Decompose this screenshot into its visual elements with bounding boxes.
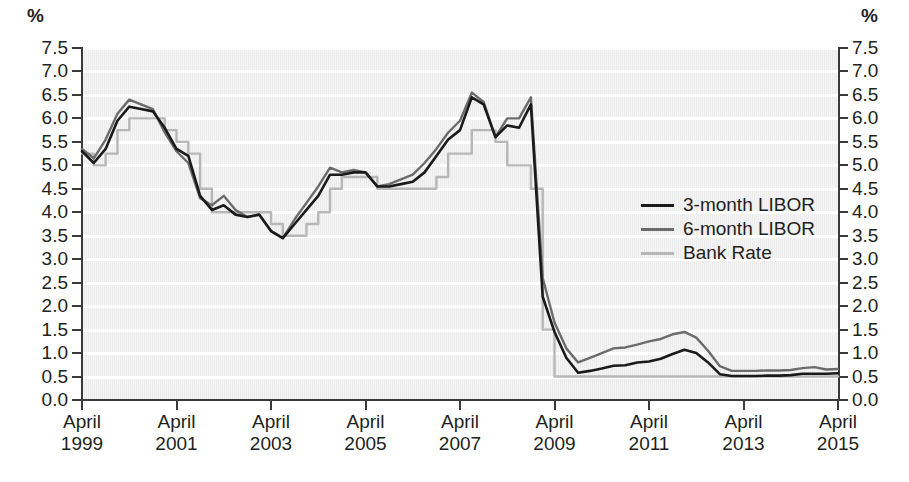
- y-tick-label-left: 6.0: [20, 108, 68, 127]
- x-tick-mark: [81, 400, 83, 410]
- x-tick-year: 2005: [321, 433, 411, 455]
- x-tick-month: April: [415, 411, 505, 433]
- x-tick-mark: [743, 400, 745, 410]
- x-tick-label: April2015: [793, 411, 883, 455]
- y-tick-label-right: 0.5: [852, 367, 900, 386]
- y-tick-label-left: 0.0: [20, 390, 68, 409]
- y-tick-mark: [72, 352, 81, 354]
- y-tick-label-right: 2.0: [852, 296, 900, 315]
- y-tick-label-right: 0.0: [852, 390, 900, 409]
- x-tick-mark: [176, 400, 178, 410]
- y-tick-mark: [839, 352, 848, 354]
- y-tick-label-left: 5.5: [20, 132, 68, 151]
- y-tick-label-right: 7.5: [852, 38, 900, 57]
- x-tick-year: 2013: [699, 433, 789, 455]
- x-tick-month: April: [604, 411, 694, 433]
- y-tick-label-right: 4.0: [852, 202, 900, 221]
- y-tick-mark: [72, 70, 81, 72]
- y-tick-label-left: 7.5: [20, 38, 68, 57]
- y-tick-label-left: 1.5: [20, 320, 68, 339]
- y-tick-mark: [839, 164, 848, 166]
- y-tick-mark: [72, 399, 81, 401]
- x-tick-mark: [459, 400, 461, 410]
- x-tick-label: April2007: [415, 411, 505, 455]
- legend-item: 3-month LIBOR: [641, 193, 851, 217]
- y-tick-mark: [72, 188, 81, 190]
- y-tick-mark: [839, 376, 848, 378]
- x-tick-year: 2003: [226, 433, 316, 455]
- y-tick-label-left: 0.5: [20, 367, 68, 386]
- x-tick-label: April1999: [37, 411, 127, 455]
- x-tick-mark: [648, 400, 650, 410]
- y-tick-label-left: 3.0: [20, 249, 68, 268]
- y-tick-mark: [839, 329, 848, 331]
- x-tick-month: April: [226, 411, 316, 433]
- y-tick-mark: [839, 70, 848, 72]
- y-tick-mark: [839, 117, 848, 119]
- y-tick-label-right: 1.5: [852, 320, 900, 339]
- y-tick-label-right: 5.0: [852, 155, 900, 174]
- x-tick-label: April2011: [604, 411, 694, 455]
- chart-legend: 3-month LIBOR6-month LIBORBank Rate: [641, 193, 851, 265]
- x-tick-year: 2001: [132, 433, 222, 455]
- x-tick-month: April: [793, 411, 883, 433]
- y-tick-mark: [839, 141, 848, 143]
- x-tick-month: April: [132, 411, 222, 433]
- x-tick-label: April2001: [132, 411, 222, 455]
- x-tick-label: April2009: [510, 411, 600, 455]
- y-tick-label-left: 3.5: [20, 226, 68, 245]
- x-tick-mark: [837, 400, 839, 410]
- y-tick-mark: [839, 305, 848, 307]
- y-tick-mark: [72, 258, 81, 260]
- legend-label: 3-month LIBOR: [683, 194, 815, 216]
- x-tick-month: April: [510, 411, 600, 433]
- y-tick-mark: [72, 94, 81, 96]
- y-tick-label-right: 7.0: [852, 61, 900, 80]
- y-tick-label-right: 2.5: [852, 273, 900, 292]
- x-tick-year: 2007: [415, 433, 505, 455]
- x-tick-month: April: [37, 411, 127, 433]
- y-tick-mark: [839, 399, 848, 401]
- y-tick-label-left: 4.5: [20, 179, 68, 198]
- legend-swatch-icon: [641, 252, 674, 255]
- x-tick-label: April2005: [321, 411, 411, 455]
- y-tick-mark: [72, 211, 81, 213]
- y-tick-mark: [72, 235, 81, 237]
- x-tick-label: April2003: [226, 411, 316, 455]
- y-tick-mark: [72, 376, 81, 378]
- y-axis-unit-label-left: %: [27, 5, 44, 27]
- y-tick-label-right: 4.5: [852, 179, 900, 198]
- legend-label: Bank Rate: [683, 242, 772, 264]
- x-tick-month: April: [321, 411, 411, 433]
- y-tick-label-left: 2.0: [20, 296, 68, 315]
- x-tick-mark: [554, 400, 556, 410]
- y-tick-label-right: 3.0: [852, 249, 900, 268]
- y-tick-label-right: 6.5: [852, 85, 900, 104]
- legend-item: 6-month LIBOR: [641, 217, 851, 241]
- interest-rate-chart: % % 7.57.06.56.05.55.04.54.03.53.02.52.0…: [0, 0, 909, 482]
- x-tick-year: 2011: [604, 433, 694, 455]
- y-tick-label-right: 1.0: [852, 343, 900, 362]
- y-tick-label-left: 7.0: [20, 61, 68, 80]
- y-tick-mark: [72, 305, 81, 307]
- x-tick-year: 1999: [37, 433, 127, 455]
- y-tick-mark: [839, 94, 848, 96]
- y-tick-mark: [72, 141, 81, 143]
- y-tick-label-left: 2.5: [20, 273, 68, 292]
- y-tick-mark: [839, 188, 848, 190]
- y-tick-label-left: 4.0: [20, 202, 68, 221]
- legend-label: 6-month LIBOR: [683, 218, 815, 240]
- y-tick-mark: [72, 47, 81, 49]
- y-tick-label-left: 6.5: [20, 85, 68, 104]
- legend-item: Bank Rate: [641, 241, 851, 265]
- y-tick-mark: [72, 164, 81, 166]
- x-tick-month: April: [699, 411, 789, 433]
- y-tick-label-right: 3.5: [852, 226, 900, 245]
- y-tick-label-right: 6.0: [852, 108, 900, 127]
- x-tick-year: 2009: [510, 433, 600, 455]
- y-tick-label-left: 1.0: [20, 343, 68, 362]
- y-tick-mark: [839, 282, 848, 284]
- x-tick-mark: [270, 400, 272, 410]
- y-tick-mark: [72, 282, 81, 284]
- x-tick-year: 2015: [793, 433, 883, 455]
